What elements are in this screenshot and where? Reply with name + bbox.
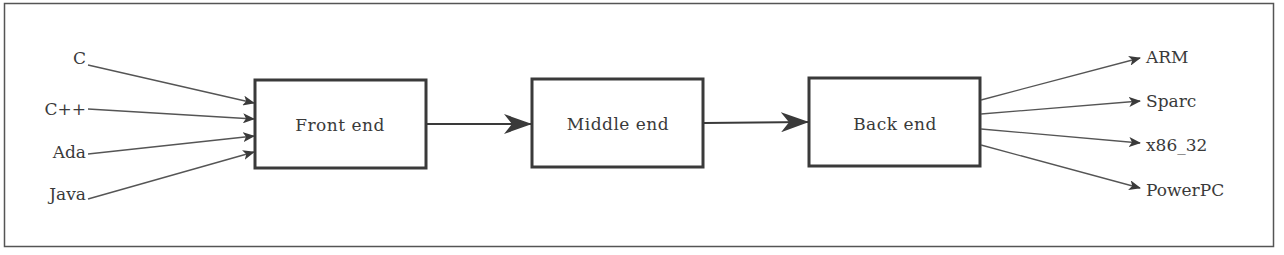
- arrow-output-powerpc: [981, 145, 1140, 188]
- output-label-arm: ARM: [1145, 47, 1188, 67]
- arrow-input-c: [88, 65, 254, 103]
- input-label-ada: Ada: [52, 142, 86, 162]
- arrow-input-ada: [88, 136, 254, 154]
- arrow-middle-to-back: [704, 122, 808, 123]
- stage-middle-end: Middle end: [532, 79, 703, 167]
- arrow-output-arm: [981, 58, 1140, 100]
- stage-front-end: Front end: [255, 80, 426, 168]
- stage-front-end-label: Front end: [295, 115, 385, 135]
- output-label-x86: x86_32: [1146, 135, 1207, 155]
- arrow-input-cpp: [88, 109, 254, 119]
- compiler-pipeline-diagram: Front end Middle end Back end C C++ Ada …: [0, 0, 1284, 255]
- output-label-powerpc: PowerPC: [1146, 180, 1224, 200]
- input-label-cpp: C++: [45, 99, 87, 119]
- arrow-output-sparc: [981, 101, 1140, 114]
- stage-back-end: Back end: [809, 78, 980, 166]
- output-label-sparc: Sparc: [1146, 91, 1196, 111]
- stage-back-end-label: Back end: [853, 114, 937, 134]
- input-label-java: Java: [47, 184, 86, 204]
- arrow-input-java: [88, 152, 254, 199]
- input-label-c: C: [73, 48, 86, 68]
- stage-middle-end-label: Middle end: [567, 114, 669, 134]
- arrow-output-x86: [981, 129, 1140, 143]
